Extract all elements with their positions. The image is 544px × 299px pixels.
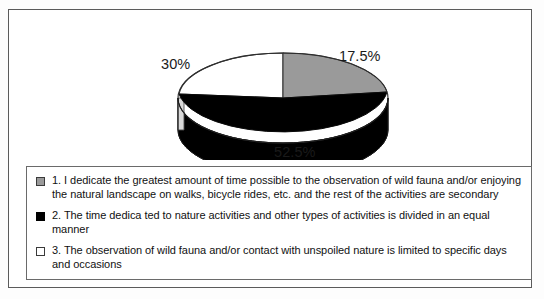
chart-area: 17.5% 30% 52.5%: [18, 20, 540, 160]
legend-item-2-label: 2. The time dedica ted to nature activit…: [52, 209, 523, 236]
legend-item-3-label: 3. The observation of wild fauna and/or …: [52, 244, 523, 271]
legend-item-3: 3. The observation of wild fauna and/or …: [27, 244, 531, 271]
pie-label-slice-1: 17.5%: [339, 48, 381, 64]
legend-swatch-white: [36, 247, 45, 256]
legend-item-1: 1. I dedicate the greatest amount of tim…: [27, 174, 531, 201]
pie-chart-svg: [18, 20, 540, 160]
pie-chart: 17.5% 30% 52.5%: [18, 20, 540, 160]
legend-swatch-gray: [36, 177, 45, 186]
chart-legend: 1. I dedicate the greatest amount of tim…: [26, 166, 532, 280]
figure-frame: 17.5% 30% 52.5% 1. I dedicate the greate…: [8, 9, 532, 288]
pie-label-slice-2: 52.5%: [274, 144, 316, 160]
figure-container: 17.5% 30% 52.5% 1. I dedicate the greate…: [0, 0, 544, 299]
legend-swatch-black: [36, 212, 45, 221]
pie-slice-3-top: [179, 53, 283, 98]
legend-item-2: 2. The time dedica ted to nature activit…: [27, 209, 531, 236]
pie-slice-2-top: [179, 92, 387, 132]
pie-label-slice-3: 30%: [161, 56, 190, 72]
legend-item-1-label: 1. I dedicate the greatest amount of tim…: [52, 174, 523, 201]
